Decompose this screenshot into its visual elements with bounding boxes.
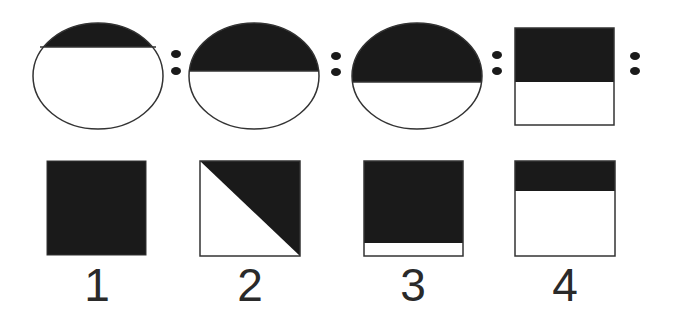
ratio-separator-icon (630, 52, 640, 75)
ratio-separator-icon (331, 52, 341, 76)
question-ellipse-2 (185, 20, 325, 129)
option-3-label[interactable]: 3 (383, 262, 443, 308)
option-1-figure[interactable] (47, 161, 146, 255)
question-square (515, 28, 614, 125)
ratio-separator-icon (492, 51, 502, 75)
option-2-label[interactable]: 2 (220, 262, 280, 308)
ratio-separator-icon (171, 50, 181, 75)
question-ellipse-3 (350, 20, 490, 129)
option-4-figure[interactable] (515, 161, 615, 256)
option-2-figure[interactable] (200, 161, 300, 256)
option-3-figure[interactable] (364, 161, 463, 256)
question-ellipse-1 (30, 20, 170, 129)
option-1-label[interactable]: 1 (67, 262, 127, 308)
option-4-label[interactable]: 4 (535, 262, 595, 308)
